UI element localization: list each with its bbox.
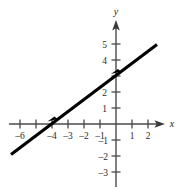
x-label-neg2: –2 [78,131,89,141]
coordinate-plane-figure: –6 –4 –3 –2 –1 1 2 5 4 2 1 –1 –2 –3 y x [0,0,182,193]
y-label-pos4: 4 [102,56,107,66]
y-axis-title: y [113,6,119,17]
y-label-pos5: 5 [102,40,107,50]
x-label-neg4: –4 [46,131,57,141]
graph-canvas: –6 –4 –3 –2 –1 1 2 5 4 2 1 –1 –2 –3 y x [0,0,182,193]
y-tick-labels: 5 4 2 1 –1 –2 –3 [98,40,109,178]
x-label-neg3: –3 [62,131,73,141]
x-label-neg6: –6 [14,131,25,141]
y-label-neg1: –1 [98,136,109,146]
y-label-neg2: –2 [98,152,109,162]
y-axis-group [112,20,120,187]
x-label-pos2: 2 [146,131,151,141]
x-label-pos1: 1 [130,131,135,141]
x-axis-title: x [169,118,175,129]
y-label-neg3: –3 [98,168,109,178]
x-axis-group [9,120,165,128]
y-label-pos1: 1 [102,104,107,114]
y-label-pos2: 2 [102,88,107,98]
